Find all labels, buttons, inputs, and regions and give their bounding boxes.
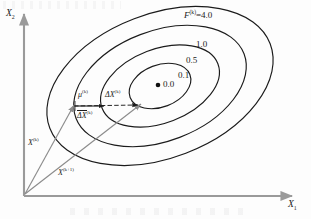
vector-x-k-plus-1-label: X(k+1) [58,169,74,177]
mu-step-label-sup: (k) [82,89,88,94]
x-axis-label: X1 [288,200,297,210]
delta-x-label-sup: (k) [115,89,121,94]
delta-x-label: ΔX(k) [105,91,120,99]
contour-level-4.0 [24,0,296,196]
contour-figure: X2 X1 F(k)=4.0 1.0 0.5 0.1 0.0 μ(k) ΔX(k… [0,0,311,219]
contour-label-01: 0.1 [178,71,189,80]
delta-xbar-overline-group: ΔX [77,110,87,120]
contour-label-outer-value: =4.0 [196,10,212,20]
delta-xbar-label-base: ΔX [77,111,87,120]
delta-x-label-base: ΔX [105,90,115,99]
mu-step-label: μ(k) [78,91,88,99]
vector-x-k-label-sup: (k) [33,137,39,142]
vector-x-k-label: X(k) [28,139,39,147]
contour-label-05: 0.5 [186,56,197,65]
contour-group [24,0,296,196]
contour-label-outer: F(k)=4.0 [184,11,212,20]
contour-label-1: 1.0 [196,40,207,49]
delta-xbar-label: ΔX(k) [77,110,92,120]
contour-label-00: 0.0 [163,80,174,89]
minimum-point-marker [156,83,161,88]
y-axis-label-sub: 2 [12,14,15,20]
y-axis-label: X2 [6,9,15,19]
delta-xbar-label-sup: (k) [87,110,93,115]
vector-x-k-plus-1-label-sup: (k+1) [63,167,74,172]
figure-canvas [0,0,311,219]
x-axis-label-sub: 1 [294,205,297,211]
